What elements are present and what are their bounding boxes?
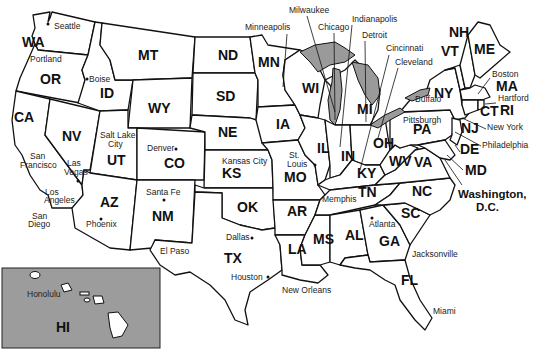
svg-text:NH: NH [449,24,469,40]
svg-text:UT: UT [107,152,126,168]
svg-text:City: City [108,139,123,149]
svg-text:Phoenix: Phoenix [86,219,117,229]
svg-text:Miami: Miami [433,306,456,316]
svg-text:MT: MT [138,47,159,63]
svg-text:ND: ND [218,47,238,63]
svg-text:NJ: NJ [461,120,479,136]
svg-text:New Orleans: New Orleans [282,285,331,295]
state-ct [462,100,478,115]
svg-text:Houston: Houston [231,272,263,282]
svg-text:Boston: Boston [492,69,519,79]
svg-text:RI: RI [500,102,514,118]
svg-text:Boise: Boise [89,74,111,84]
svg-text:Denver: Denver [147,143,175,153]
us-map: WA OR CA NV ID MT WY UT AZ CO NM ND SD N… [0,0,534,350]
svg-text:OR: OR [40,71,61,87]
svg-text:MN: MN [258,54,280,70]
svg-text:DE: DE [460,141,479,157]
svg-text:Louis: Louis [287,159,307,169]
svg-text:KY: KY [357,165,377,181]
svg-text:Pittsburgh: Pittsburgh [403,115,442,125]
svg-text:KS: KS [222,165,241,181]
svg-text:FL: FL [401,272,419,288]
svg-text:CO: CO [164,155,185,171]
svg-text:AR: AR [287,203,307,219]
svg-text:IN: IN [341,148,355,164]
svg-text:CT: CT [480,103,499,119]
svg-text:OH: OH [373,135,394,151]
svg-text:New York: New York [487,122,524,132]
svg-text:Francisco: Francisco [20,160,57,170]
svg-text:ME: ME [474,41,495,57]
svg-text:El Paso: El Paso [160,246,190,256]
svg-text:NM: NM [152,208,174,224]
svg-text:WY: WY [148,100,171,116]
svg-text:SC: SC [401,205,420,221]
svg-text:Hartford: Hartford [498,93,529,103]
svg-text:MA: MA [496,78,518,94]
state-fl [340,255,432,330]
svg-text:Philadelphia: Philadelphia [482,140,529,150]
svg-text:AL: AL [345,227,364,243]
capital-label: Washington, D.C. [458,188,527,213]
svg-text:Milwaukee: Milwaukee [289,5,329,15]
svg-text:NE: NE [218,124,237,140]
svg-text:LA: LA [288,241,307,257]
svg-text:TX: TX [224,250,243,266]
state-az [72,170,137,250]
svg-text:Atlanta: Atlanta [369,219,396,229]
svg-text:Indianapolis: Indianapolis [352,14,397,24]
svg-text:Honolulu: Honolulu [27,289,61,299]
svg-text:MD: MD [465,162,487,178]
svg-text:Dallas: Dallas [226,232,250,242]
svg-text:CA: CA [14,109,34,125]
svg-text:NV: NV [62,128,82,144]
svg-text:D.C.: D.C. [476,201,499,213]
svg-text:WI: WI [302,80,319,96]
svg-text:Vegas: Vegas [64,167,88,177]
state-co [137,128,205,180]
svg-text:AZ: AZ [100,194,119,210]
svg-text:ID: ID [100,85,114,101]
svg-text:Minneapolis: Minneapolis [245,22,290,32]
svg-text:Detroit: Detroit [362,30,388,40]
svg-text:OK: OK [237,199,258,215]
svg-text:WV: WV [389,153,412,169]
hawaii-inset: Honolulu HI [2,268,160,348]
svg-text:SD: SD [216,88,235,104]
svg-text:Chicago: Chicago [318,22,349,32]
svg-text:VT: VT [441,43,459,59]
svg-text:Cincinnati: Cincinnati [386,43,423,53]
svg-text:Kansas City: Kansas City [222,156,268,166]
svg-text:NC: NC [412,183,432,199]
svg-text:GA: GA [379,233,400,249]
svg-text:Diego: Diego [28,219,50,229]
svg-text:Jacksonville: Jacksonville [412,249,458,259]
svg-text:IL: IL [317,140,330,156]
svg-text:HI: HI [56,319,70,335]
svg-text:Seattle: Seattle [54,21,81,31]
svg-text:MS: MS [313,231,334,247]
svg-text:VA: VA [414,154,432,170]
svg-text:Buffalo: Buffalo [415,94,442,104]
svg-text:WA: WA [22,34,45,50]
svg-text:Portland: Portland [30,54,62,64]
svg-text:Santa Fe: Santa Fe [146,187,181,197]
svg-text:Memphis: Memphis [322,194,356,204]
svg-text:TN: TN [358,184,377,200]
svg-text:Angeles: Angeles [44,195,75,205]
svg-text:Cleveland: Cleveland [395,57,433,67]
svg-text:MI: MI [357,101,373,117]
svg-text:Washington,: Washington, [458,188,527,200]
svg-text:MO: MO [284,169,307,185]
svg-text:IA: IA [276,116,290,132]
